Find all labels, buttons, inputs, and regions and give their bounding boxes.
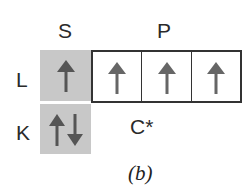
arrow-up-icon: [158, 62, 176, 94]
orbital-box-l-p1: [91, 50, 142, 103]
arrow-up-icon: [108, 62, 126, 94]
arrow-up-icon: [57, 60, 75, 92]
shell-label-l: L: [16, 69, 28, 90]
arrow-up-icon: [49, 114, 65, 146]
orbital-box-l-s: [40, 50, 91, 101]
atom-label: C*: [130, 116, 153, 137]
arrow-down-icon: [67, 114, 83, 146]
subshell-label-s: S: [58, 20, 72, 41]
arrow-up-icon: [207, 62, 225, 94]
orbital-box-k-s: [40, 104, 91, 154]
caption: (b): [128, 161, 153, 186]
orbital-box-l-p3: [191, 50, 242, 103]
shell-label-k: K: [16, 122, 30, 143]
subshell-label-p: P: [157, 20, 171, 41]
orbital-box-l-p2: [141, 50, 192, 103]
